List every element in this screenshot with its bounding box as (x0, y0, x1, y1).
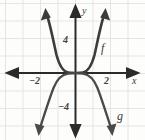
axis-label-x: x (132, 76, 136, 86)
tick-label-y-negative-4: −4 (58, 102, 69, 112)
tick-label-y-positive-4: 4 (63, 35, 68, 45)
tick-label-x-positive-2: 2 (104, 76, 109, 86)
coordinate-plane-svg (0, 0, 145, 140)
graph-figure: y x −2 2 4 −4 f g (0, 0, 145, 140)
curve-label-g: g (117, 110, 123, 122)
axis-label-y: y (82, 6, 86, 16)
y-axis (71, 6, 80, 136)
grid-lines (0, 0, 145, 140)
curve-label-f: f (101, 42, 104, 54)
tick-label-x-negative-2: −2 (29, 76, 40, 86)
